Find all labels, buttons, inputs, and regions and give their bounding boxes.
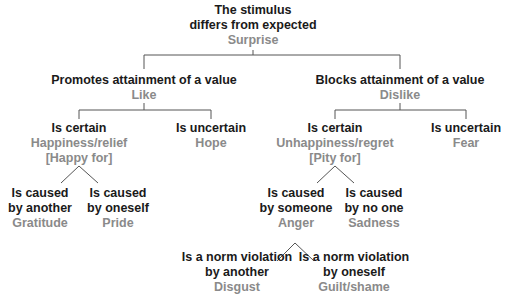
blocks-uncertain-condition: Is uncertain <box>431 121 501 136</box>
caused-someone-line1: Is caused <box>260 186 333 201</box>
promotes-node: Promotes attainment of a value Like <box>51 73 236 103</box>
blocks-certain-emotion-other: [Pity for] <box>276 151 393 166</box>
promotes-condition: Promotes attainment of a value <box>51 73 236 88</box>
root-node: The stimulus differs from expected Surpr… <box>189 3 316 48</box>
promotes-emotion: Like <box>51 88 236 103</box>
caused-another-line1: Is caused <box>8 186 72 201</box>
caused-another-node: Is caused by another Gratitude <box>8 186 72 231</box>
promotes-certain-condition: Is certain <box>31 121 128 136</box>
caused-noone-line1: Is caused <box>344 186 403 201</box>
norm-another-node: Is a norm violation by another Disgust <box>182 250 292 295</box>
root-condition-line2: differs from expected <box>189 18 316 33</box>
norm-another-emotion: Disgust <box>182 280 292 295</box>
caused-someone-emotion: Anger <box>260 216 333 231</box>
blocks-node: Blocks attainment of a value Dislike <box>316 73 485 103</box>
promotes-uncertain-node: Is uncertain Hope <box>176 121 246 151</box>
root-emotion: Surprise <box>189 33 316 48</box>
promotes-certain-node: Is certain Happiness/relief [Happy for] <box>31 121 128 166</box>
caused-someone-node: Is caused by someone Anger <box>260 186 333 231</box>
caused-oneself-node: Is caused by oneself Pride <box>87 186 149 231</box>
caused-someone-line2: by someone <box>260 201 333 216</box>
blocks-uncertain-node: Is uncertain Fear <box>431 121 501 151</box>
caused-noone-node: Is caused by no one Sadness <box>344 186 403 231</box>
norm-another-line1: Is a norm violation <box>182 250 292 265</box>
promotes-uncertain-condition: Is uncertain <box>176 121 246 136</box>
promotes-certain-emotion: Happiness/relief <box>31 136 128 151</box>
caused-another-line2: by another <box>8 201 72 216</box>
blocks-condition: Blocks attainment of a value <box>316 73 485 88</box>
norm-another-line2: by another <box>182 265 292 280</box>
caused-oneself-emotion: Pride <box>87 216 149 231</box>
promotes-certain-emotion-other: [Happy for] <box>31 151 128 166</box>
norm-oneself-node: Is a norm violation by oneself Guilt/sha… <box>299 250 409 295</box>
caused-oneself-line1: Is caused <box>87 186 149 201</box>
caused-oneself-line2: by oneself <box>87 201 149 216</box>
promotes-uncertain-emotion: Hope <box>176 136 246 151</box>
norm-oneself-line2: by oneself <box>299 265 409 280</box>
caused-noone-emotion: Sadness <box>344 216 403 231</box>
blocks-emotion: Dislike <box>316 88 485 103</box>
blocks-certain-condition: Is certain <box>276 121 393 136</box>
blocks-uncertain-emotion: Fear <box>431 136 501 151</box>
blocks-certain-emotion: Unhappiness/regret <box>276 136 393 151</box>
blocks-certain-node: Is certain Unhappiness/regret [Pity for] <box>276 121 393 166</box>
norm-oneself-emotion: Guilt/shame <box>299 280 409 295</box>
norm-oneself-line1: Is a norm violation <box>299 250 409 265</box>
caused-noone-line2: by no one <box>344 201 403 216</box>
caused-another-emotion: Gratitude <box>8 216 72 231</box>
root-condition-line1: The stimulus <box>189 3 316 18</box>
